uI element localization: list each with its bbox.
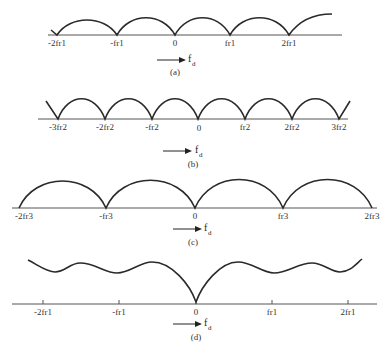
panel-a-tick-label: 2fr1 [282,38,297,48]
axis-variable-subscript: d [199,151,203,159]
panel-c-tick-label: fr3 [278,211,289,221]
panel-a-frequency-arrow: f d [157,53,196,68]
panel-b-tick-label: -3fr2 [49,122,67,132]
panel-d-caption: (d) [191,332,202,342]
panel-d-tick-label: -fr1 [112,307,126,317]
panel-a-caption: (a) [170,67,180,77]
panel-c-tick-label: 0 [193,211,198,221]
panel-b-caption: (b) [188,159,199,169]
arrowhead-icon [195,226,202,232]
axis-variable-subscript: d [192,60,196,68]
panel-d-frequency-arrow: f d [173,317,212,332]
panel-b-tick-label: 3fr2 [332,122,347,132]
panel-b-frequency-arrow: f d [163,144,203,159]
panel-b: -3fr2 -2fr2 -fr2 0 fr2 2fr2 3fr2 f d (b) [38,99,350,169]
panel-c-response-curve [19,180,372,209]
panel-b-tick-label: -fr2 [145,122,159,132]
panel-c-tick-label: -fr3 [99,211,113,221]
panel-c-tick-label: -2fr3 [15,211,33,221]
panel-a-tick-label: -2fr1 [48,38,66,48]
panel-a: -2fr1 -fr1 0 fr1 2fr1 f d (a) [48,14,342,77]
panel-a-tick-label: 0 [173,38,178,48]
panel-a-response-curve [51,14,332,35]
panel-a-tick-label: fr1 [225,38,236,48]
arrowhead-icon [179,57,186,63]
panel-c-caption: (c) [188,237,198,247]
panel-d-tick-label: 0 [194,307,199,317]
panel-d-tick-label: fr1 [267,307,278,317]
axis-variable-subscript: d [208,229,212,237]
axis-variable-subscript: d [208,324,212,332]
panel-c-frequency-arrow: f d [173,222,212,237]
panel-b-tick-label: -2fr2 [96,122,114,132]
panel-c: -2fr3 -fr3 0 fr3 2fr3 f d (c) [12,180,380,248]
panel-b-tick-label: 2fr2 [285,122,300,132]
panel-b-tick-label: 0 [197,123,202,133]
panel-c-tick-label: 2fr3 [365,211,380,221]
staggered-prf-figure: -2fr1 -fr1 0 fr1 2fr1 f d (a) -3fr2 -2fr… [0,0,391,350]
arrowhead-icon [195,321,202,327]
panel-d-tick-label: -2fr1 [34,307,52,317]
panel-d-tick-label: 2fr1 [341,307,356,317]
panel-b-response-curve [46,99,350,119]
panel-d-response-curve [28,259,362,302]
panel-a-tick-label: -fr1 [110,38,124,48]
arrowhead-icon [185,148,192,154]
panel-b-tick-label: fr2 [240,122,251,132]
panel-d: -2fr1 -fr1 0 fr1 2fr1 f d (d) [12,259,377,342]
